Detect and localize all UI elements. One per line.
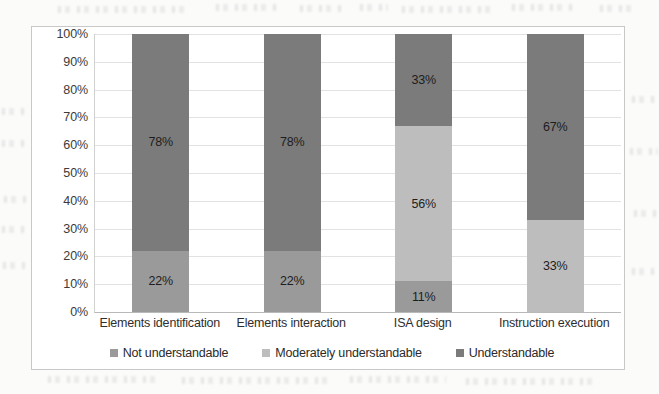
- stacked-bars: 78%22%78%22%33%56%11%67%33%: [95, 34, 621, 312]
- bar-segment-value-label: 11%: [412, 290, 436, 304]
- bar-column[interactable]: 78%22%: [132, 34, 189, 312]
- legend-item[interactable]: Understandable: [456, 346, 554, 360]
- legend-swatch-icon: [262, 349, 270, 357]
- bar-segment[interactable]: 67%: [527, 34, 584, 220]
- x-axis-category-label: Elements interaction: [226, 316, 357, 330]
- legend-label: Not understandable: [123, 346, 229, 360]
- y-axis-tick: 20%: [63, 249, 88, 263]
- bar-segment[interactable]: 78%: [132, 34, 189, 251]
- y-axis-tick: 70%: [63, 110, 88, 124]
- bar-segment-value-label: 22%: [149, 274, 173, 288]
- bar-column[interactable]: 78%22%: [264, 34, 321, 312]
- legend-swatch-icon: [456, 349, 464, 357]
- legend-swatch-icon: [110, 349, 118, 357]
- bar-segment[interactable]: 22%: [132, 251, 189, 312]
- plot-wrapper: 100%90%80%70%60%50%40%30%20%10%0% 78%22%…: [32, 27, 626, 371]
- bar-column[interactable]: 33%56%11%: [395, 34, 452, 312]
- bar-column[interactable]: 67%33%: [527, 34, 584, 312]
- bar-segment[interactable]: 22%: [264, 251, 321, 312]
- y-axis-tick: 0%: [70, 305, 88, 319]
- chart-legend: Not understandableModerately understanda…: [72, 342, 592, 364]
- y-axis-tick-labels: 100%90%80%70%60%50%40%30%20%10%0%: [32, 34, 94, 312]
- y-axis-tick: 80%: [63, 83, 88, 97]
- plot-area: 78%22%78%22%33%56%11%67%33%: [94, 34, 621, 313]
- bar-segment-value-label: 33%: [412, 73, 436, 87]
- bar-segment[interactable]: 11%: [395, 281, 452, 312]
- bar-segment-value-label: 33%: [543, 259, 567, 273]
- bar-segment[interactable]: 56%: [395, 126, 452, 282]
- bar-segment[interactable]: 33%: [527, 220, 584, 312]
- x-axis-category-label: Elements identification: [94, 316, 225, 330]
- legend-label: Moderately understandable: [275, 346, 422, 360]
- legend-item[interactable]: Moderately understandable: [262, 346, 422, 360]
- bar-segment[interactable]: 33%: [395, 34, 452, 126]
- bar-segment-value-label: 78%: [280, 135, 304, 149]
- bar-segment-value-label: 22%: [280, 274, 304, 288]
- bar-segment[interactable]: 78%: [264, 34, 321, 251]
- x-axis-category-label: ISA design: [357, 316, 488, 330]
- y-axis-tick: 30%: [63, 222, 88, 236]
- y-axis-tick: 10%: [63, 277, 88, 291]
- x-axis-category-label: Instruction execution: [489, 316, 620, 330]
- chart-figure-frame: 100%90%80%70%60%50%40%30%20%10%0% 78%22%…: [31, 26, 625, 370]
- x-axis-category-labels: Elements identificationElements interact…: [94, 316, 620, 336]
- y-axis-tick: 100%: [56, 27, 88, 41]
- y-axis-tick: 90%: [63, 55, 88, 69]
- bar-segment-value-label: 78%: [149, 135, 173, 149]
- y-axis-tick: 40%: [63, 194, 88, 208]
- bar-segment-value-label: 56%: [412, 197, 436, 211]
- y-axis-tick: 50%: [63, 166, 88, 180]
- legend-label: Understandable: [469, 346, 554, 360]
- legend-item[interactable]: Not understandable: [110, 346, 229, 360]
- y-axis-tick: 60%: [63, 138, 88, 152]
- bar-segment-value-label: 67%: [543, 120, 567, 134]
